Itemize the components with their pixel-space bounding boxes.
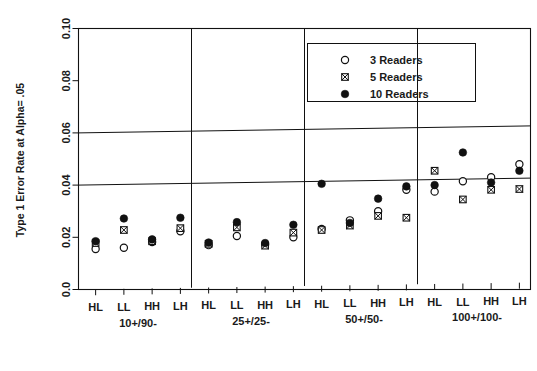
- data-point-5-readers-3: [177, 225, 184, 232]
- chart-container: Type 1 Error Rate at Alpha= .05 0.00.020…: [0, 0, 537, 371]
- data-point-5-readers-8: [318, 227, 325, 234]
- legend-label-2: 10 Readers: [370, 88, 429, 100]
- marker-filled-circle: [431, 181, 439, 189]
- marker-filled-circle: [403, 183, 411, 191]
- x-tick-label-2525-HL: HL: [201, 299, 216, 311]
- legend: 3 Readers5 Readers10 Readers: [308, 44, 476, 102]
- y-tick-label: 0.08: [60, 70, 72, 91]
- x-tick-label-100100-HH: HH: [483, 295, 499, 307]
- legend-marker-2: [341, 90, 349, 98]
- data-point-5-readers-15: [516, 186, 523, 193]
- data-point-3-readers-13: [459, 178, 466, 185]
- legend-marker-1: [342, 74, 349, 81]
- x-tick-label-2525-LL: LL: [230, 299, 244, 311]
- marker-open-circle: [120, 244, 127, 251]
- data-point-5-readers-12: [431, 167, 438, 174]
- panel-separators: [192, 29, 418, 288]
- data-point-3-readers-5: [233, 232, 240, 239]
- x-tick-label-1090-HL: HL: [88, 301, 103, 313]
- x-tick-label-5050-LH: LH: [399, 296, 414, 308]
- x-tick-label-1090-HH: HH: [144, 300, 160, 312]
- data-point-5-readers-13: [460, 196, 467, 203]
- data-point-5-readers-7: [290, 229, 297, 236]
- data-point-3-readers-1: [120, 244, 127, 251]
- marker-filled-circle: [233, 218, 241, 226]
- data-point-5-readers-14: [488, 186, 495, 193]
- marker-filled-circle: [487, 179, 495, 187]
- marker-filled-circle: [318, 180, 326, 188]
- data-point-10-readers-7: [290, 221, 298, 229]
- y-tick-label: 0.0: [60, 282, 72, 297]
- x-tick-label-5050-HH: HH: [370, 297, 386, 309]
- x-tick-label-100100-LL: LL: [456, 296, 470, 308]
- marker-open-circle: [233, 232, 240, 239]
- x-tick-label-100100-HL: HL: [427, 296, 442, 308]
- data-point-10-readers-9: [346, 219, 354, 227]
- marker-open-circle: [459, 178, 466, 185]
- data-point-10-readers-8: [318, 180, 326, 188]
- data-point-10-readers-13: [459, 149, 467, 157]
- x-tick-label-100100-LH: LH: [512, 295, 527, 307]
- data-point-10-readers-11: [403, 183, 411, 191]
- data-point-10-readers-3: [177, 214, 185, 222]
- y-tick-label: 0.10: [60, 18, 72, 39]
- data-points-layer: [92, 149, 523, 253]
- marker-filled-circle: [148, 236, 156, 244]
- data-point-10-readers-15: [516, 167, 524, 175]
- y-tick-label: 0.04: [60, 174, 72, 196]
- legend-items: 3 Readers5 Readers10 Readers: [341, 54, 429, 100]
- data-point-10-readers-10: [374, 195, 382, 203]
- marker-filled-circle: [341, 90, 349, 98]
- y-axis-tick-labels: 0.00.020.040.060.080.10: [60, 18, 72, 297]
- x-group-label-5050: 50+/50-: [345, 313, 383, 325]
- legend-label-0: 3 Readers: [370, 54, 423, 66]
- data-point-5-readers-11: [403, 214, 410, 221]
- x-tick-label-1090-LH: LH: [173, 300, 188, 312]
- marker-filled-circle: [516, 167, 524, 175]
- marker-filled-circle: [120, 215, 128, 223]
- x-tick-label-5050-HL: HL: [314, 298, 329, 310]
- data-point-5-readers-10: [375, 213, 382, 220]
- marker-filled-circle: [374, 195, 382, 203]
- marker-filled-circle: [205, 239, 213, 247]
- y-tick-label: 0.06: [60, 122, 72, 143]
- marker-filled-circle: [290, 221, 298, 229]
- data-point-10-readers-2: [148, 236, 156, 244]
- x-group-label-2525: 25+/25-: [232, 315, 270, 327]
- marker-filled-circle: [177, 214, 185, 222]
- x-tick-label-2525-LH: LH: [286, 298, 301, 310]
- data-point-10-readers-4: [205, 239, 213, 247]
- data-point-10-readers-6: [261, 239, 269, 247]
- y-tick-label: 0.02: [60, 227, 72, 248]
- legend-marker-0: [341, 56, 348, 63]
- x-group-label-100100: 100+/100-: [452, 311, 502, 323]
- data-point-10-readers-12: [431, 181, 439, 189]
- type1-error-rate-scatter-chart: Type 1 Error Rate at Alpha= .05 0.00.020…: [0, 0, 537, 371]
- marker-filled-circle: [459, 149, 467, 157]
- legend-label-1: 5 Readers: [370, 71, 423, 83]
- x-group-label-1090: 10+/90-: [119, 317, 157, 329]
- marker-open-circle: [341, 56, 348, 63]
- marker-filled-circle: [346, 219, 354, 227]
- data-point-10-readers-0: [92, 237, 100, 245]
- x-axis-group-labels: 10+/90-25+/25-50+/50-100+/100-: [119, 311, 502, 328]
- x-tick-label-2525-HH: HH: [257, 299, 273, 311]
- y-axis-tick-marks: [73, 29, 79, 290]
- x-tick-label-1090-LL: LL: [117, 301, 131, 313]
- data-point-10-readers-14: [487, 179, 495, 187]
- data-point-10-readers-5: [233, 218, 241, 226]
- x-tick-label-5050-LL: LL: [343, 297, 357, 309]
- marker-filled-circle: [261, 239, 269, 247]
- data-point-5-readers-1: [121, 227, 128, 234]
- y-axis-title: Type 1 Error Rate at Alpha= .05: [14, 83, 26, 238]
- data-point-10-readers-1: [120, 215, 128, 223]
- marker-filled-circle: [92, 237, 100, 245]
